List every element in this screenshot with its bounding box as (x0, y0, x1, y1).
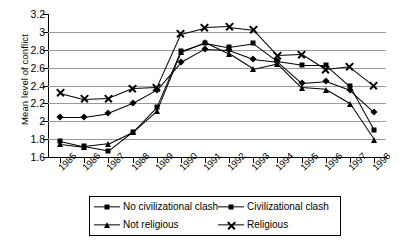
triangle-marker-icon (274, 61, 280, 67)
x-marker-icon (128, 84, 137, 93)
x-marker-icon (345, 62, 354, 71)
x-marker-icon (152, 83, 161, 92)
x-marker-icon (297, 50, 306, 59)
x-marker-icon (273, 51, 282, 60)
x-marker-icon (225, 22, 234, 31)
x-marker-icon (104, 94, 113, 103)
y-axis-tick-mark (43, 50, 48, 51)
y-axis-tick-mark (43, 103, 48, 104)
square-marker-icon (227, 45, 232, 50)
legend-entry: Civilizational clash (218, 202, 340, 212)
x-marker-icon (176, 29, 185, 38)
diamond-marker-icon (322, 77, 329, 84)
y-axis-tick-mark (43, 86, 48, 87)
legend-entry: Religious (218, 220, 340, 230)
x-marker-icon (80, 94, 89, 103)
triangle-marker-icon (57, 141, 63, 147)
square-marker-icon (299, 62, 304, 67)
x-marker-icon (249, 25, 258, 34)
diamond-marker-icon (250, 55, 257, 62)
legend-label: Civilizational clash (247, 202, 329, 212)
square-marker-icon (371, 128, 376, 133)
triangle-marker-icon (105, 141, 111, 147)
triangle-marker-icon (202, 39, 208, 45)
diamond-marker-icon (105, 205, 110, 210)
triangle-marker-icon (299, 85, 305, 91)
line-chart: Mean level of conflict 1.61.822.22.42.62… (0, 0, 399, 242)
legend-swatch (94, 202, 120, 212)
x-marker-icon (227, 221, 236, 230)
series-line-segment (132, 111, 157, 133)
square-marker-icon (347, 84, 352, 89)
triangle-marker-icon (347, 101, 353, 107)
triangle-marker-icon (81, 144, 87, 150)
diamond-marker-icon (370, 109, 377, 116)
y-axis-tick-mark (43, 157, 48, 158)
y-axis-tick-mark (43, 14, 48, 15)
series-layer (48, 14, 386, 157)
triangle-marker-icon (154, 108, 160, 114)
triangle-marker-icon (130, 129, 136, 135)
triangle-marker-icon (323, 87, 329, 93)
x-marker-icon (369, 81, 378, 90)
diamond-marker-icon (81, 113, 88, 120)
y-axis-tick-mark (43, 68, 48, 69)
legend-swatch (94, 220, 120, 230)
plot-area (48, 14, 386, 157)
y-axis-tick-mark (43, 139, 48, 140)
diamond-marker-icon (57, 113, 64, 120)
x-marker-icon (321, 65, 330, 74)
legend-entry: Not religious (94, 220, 218, 230)
x-marker-icon (200, 23, 209, 32)
square-marker-icon (106, 148, 111, 153)
triangle-marker-icon (104, 222, 110, 228)
diamond-marker-icon (129, 100, 136, 107)
series-line-segment (229, 43, 253, 48)
legend-label: Religious (247, 220, 288, 230)
square-marker-icon (229, 205, 234, 210)
triangle-marker-icon (226, 51, 232, 57)
y-axis-tick-labels: 1.61.822.22.42.62.833.2 (14, 14, 45, 157)
triangle-marker-icon (250, 66, 256, 72)
square-marker-icon (251, 41, 256, 46)
triangle-marker-icon (178, 49, 184, 55)
y-axis-tick-mark (43, 121, 48, 122)
triangle-marker-icon (371, 137, 377, 143)
legend-swatch (218, 220, 244, 230)
chart-legend: No civilizational clashCivilizational cl… (89, 196, 341, 236)
legend-label: No civilizational clash (123, 202, 218, 212)
y-axis-tick-mark (43, 32, 48, 33)
series-line-segment (108, 103, 133, 114)
x-marker-icon (56, 88, 65, 97)
legend-swatch (218, 202, 244, 212)
legend-entry: No civilizational clash (94, 202, 218, 212)
legend-label: Not religious (123, 220, 179, 230)
